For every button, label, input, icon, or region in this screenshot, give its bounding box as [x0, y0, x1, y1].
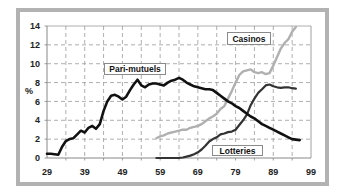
- x-tick-label: 29: [42, 167, 52, 177]
- y-tick-label: 12: [30, 40, 40, 50]
- y-tick-label: 0: [35, 153, 40, 163]
- x-tick-label: 69: [193, 167, 203, 177]
- x-tick-label: 59: [155, 167, 165, 177]
- y-tick-label: 4: [35, 115, 40, 125]
- x-tick-label: 39: [80, 167, 90, 177]
- y-tick-label: 6: [35, 97, 40, 107]
- y-tick-label: 2: [35, 134, 40, 144]
- x-tick-label: 99: [306, 167, 316, 177]
- x-tick-label: 79: [231, 167, 241, 177]
- label-pari-mutuels: Pari-mutuels: [104, 63, 166, 75]
- line-chart: 024681012142939495969798999: [0, 0, 346, 195]
- y-tick-label: 8: [35, 78, 40, 88]
- x-tick-label: 89: [268, 167, 278, 177]
- x-tick-label: 49: [117, 167, 127, 177]
- y-tick-label: 10: [30, 59, 40, 69]
- y-tick-label: 14: [30, 21, 40, 31]
- label-casinos: Casinos: [227, 32, 271, 45]
- gridlines: [47, 26, 311, 158]
- label-lotteries: Lotteries: [212, 145, 263, 156]
- y-axis-unit-label: %: [25, 86, 33, 96]
